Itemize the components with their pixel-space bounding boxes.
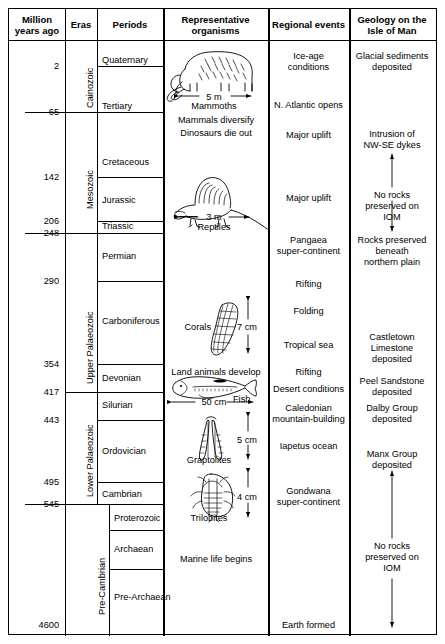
geological-timescale-table: Million years ago Eras Periods Represent… <box>8 8 437 635</box>
trilobite-illustration <box>191 474 235 522</box>
illustrations-layer <box>9 9 438 636</box>
fish-illustration <box>173 377 257 399</box>
coral-illustration <box>211 303 238 355</box>
mammoth-illustration <box>167 52 252 102</box>
reptile-illustration <box>174 178 269 230</box>
graptolite-illustration <box>199 417 223 460</box>
